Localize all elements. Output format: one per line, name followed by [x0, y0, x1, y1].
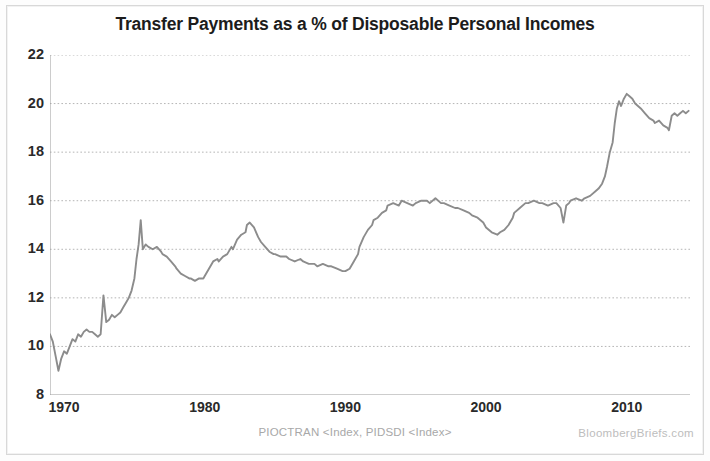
x-tick-label: 1970: [34, 399, 94, 415]
plot-area: [50, 55, 690, 395]
chart-title: Transfer Payments as a % of Disposable P…: [0, 14, 710, 35]
y-tick-label: 14: [4, 240, 44, 256]
y-axis-tick-labels: 810121416182022: [0, 55, 44, 395]
gridlines: [50, 55, 690, 346]
x-tick-label: 2000: [456, 399, 516, 415]
x-tick-label: 2010: [597, 399, 657, 415]
axis-lines: [50, 55, 690, 395]
y-tick-label: 16: [4, 192, 44, 208]
data-series-line: [50, 94, 689, 371]
y-tick-label: 12: [4, 289, 44, 305]
y-tick-label: 20: [4, 95, 44, 111]
chart-screenshot: Transfer Payments as a % of Disposable P…: [0, 0, 710, 461]
chart-plot-svg: [50, 55, 690, 395]
y-tick-label: 18: [4, 143, 44, 159]
watermark: BloombergBriefs.com: [578, 427, 694, 439]
y-tick-label: 10: [4, 337, 44, 353]
x-axis-tick-labels: 19701980199020002010: [50, 399, 690, 421]
x-tick-label: 1980: [175, 399, 235, 415]
y-tick-label: 22: [4, 46, 44, 62]
x-tick-label: 1990: [315, 399, 375, 415]
